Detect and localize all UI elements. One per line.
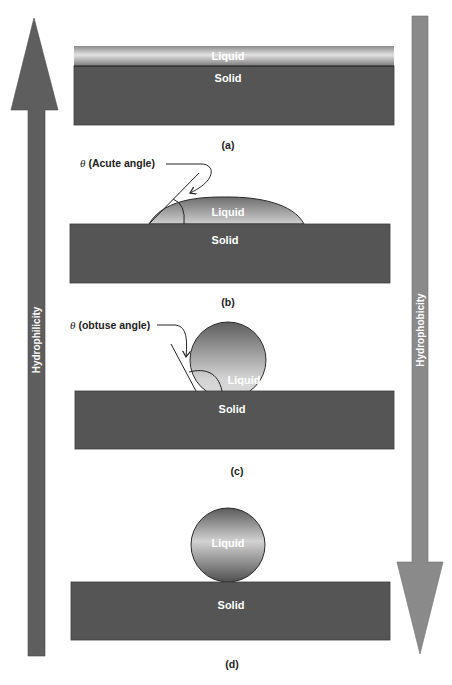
panel-caption: (c) <box>231 465 244 477</box>
panel-b: θ(Acute angle) Liquid Solid (b) <box>70 157 390 308</box>
liquid-label: Liquid <box>212 206 245 218</box>
leader-arrow <box>157 325 187 357</box>
solid-label: Solid <box>218 599 245 611</box>
hydrophobicity-label: Hydrophobicity <box>415 293 426 367</box>
leader-arrow <box>166 164 211 193</box>
solid-substrate <box>71 582 390 640</box>
solid-label: Solid <box>212 234 239 246</box>
solid-label: Solid <box>215 72 242 84</box>
solid-substrate <box>75 391 394 449</box>
solid-substrate <box>70 224 390 283</box>
contact-angle-diagram: Hydrophilicity Hydrophobicity Liquid Sol… <box>0 0 452 685</box>
hydrophobicity-arrow: Hydrophobicity <box>397 16 443 654</box>
panel-c: θ(obtuse angle) Liquid Solid (c) <box>70 319 394 477</box>
angle-annotation: θ(Acute angle) <box>80 157 155 169</box>
panel-d: Liquid Solid (d) <box>71 508 390 670</box>
hydrophilicity-label: Hydrophilicity <box>31 306 42 373</box>
angle-annotation: θ(obtuse angle) <box>70 319 150 331</box>
liquid-label: Liquid <box>212 50 245 62</box>
liquid-drop <box>190 322 266 398</box>
hydrophilicity-arrow: Hydrophilicity <box>11 18 58 656</box>
liquid-label: Liquid <box>228 374 261 386</box>
panel-a: Liquid Solid (a) <box>74 46 394 151</box>
panel-caption: (d) <box>225 658 238 670</box>
solid-label: Solid <box>219 403 246 415</box>
panel-caption: (b) <box>221 296 234 308</box>
panel-caption: (a) <box>222 139 235 151</box>
liquid-label: Liquid <box>212 537 245 549</box>
